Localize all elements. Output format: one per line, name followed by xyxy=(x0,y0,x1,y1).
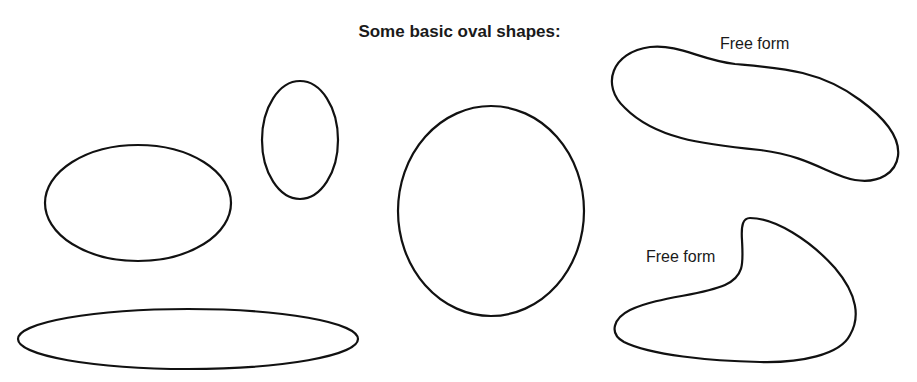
free-form-bottom xyxy=(615,218,856,362)
horizontal-ellipse xyxy=(45,145,231,261)
vertical-ellipse xyxy=(262,81,338,199)
flat-ellipse xyxy=(18,309,358,369)
shapes-canvas xyxy=(0,0,917,382)
free-form-top xyxy=(612,47,898,181)
large-oval xyxy=(398,106,584,316)
